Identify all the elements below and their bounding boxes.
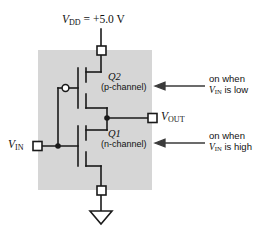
vout-terminal-square[interactable]	[148, 114, 157, 123]
annotation-n-channel: on when VIN is high	[209, 131, 252, 153]
annotation-arrow-top-head	[155, 82, 165, 90]
annotation-arrow-bottom-head	[155, 139, 165, 147]
vout-symbol: V	[161, 110, 168, 122]
q2-designator-label: Q2	[108, 71, 121, 83]
cmos-inverter-schematic	[0, 0, 267, 236]
annotation-p-channel-line2: VIN is low	[209, 85, 248, 96]
q1-type-label: (n-channel)	[101, 139, 147, 149]
annotation-p-channel-condition: is low	[222, 84, 248, 95]
vout-label: VOUT	[161, 110, 185, 124]
q2-type-label: (p-channel)	[101, 82, 147, 92]
vdd-label: VDD = +5.0 V	[62, 13, 125, 27]
annotation-p-channel-line1: on when	[209, 73, 245, 84]
annotation-n-channel-line1: on when	[209, 130, 245, 141]
annotation-p-channel-vin-subscript: IN	[215, 88, 222, 95]
ground-terminal-square[interactable]	[97, 186, 106, 195]
vin-label: VIN	[8, 138, 24, 152]
output-junction-dot	[104, 115, 110, 121]
vin-terminal-square[interactable]	[33, 142, 42, 151]
figure-canvas: VDD = +5.0 V VOUT VIN Q2 (p-channel) Q1 …	[0, 0, 267, 236]
input-junction-dot	[55, 143, 61, 149]
annotation-p-channel: on when VIN is low	[209, 74, 248, 96]
ground-symbol-icon	[90, 211, 112, 224]
substrate-region	[38, 50, 152, 190]
vdd-value: = +5.0 V	[81, 13, 125, 25]
vdd-terminal-square[interactable]	[97, 46, 106, 55]
vin-subscript: IN	[15, 143, 24, 152]
annotation-n-channel-line2: VIN is high	[209, 142, 252, 153]
pmos-gate-bubble-icon	[62, 85, 69, 92]
vdd-subscript: DD	[69, 18, 81, 27]
vin-symbol: V	[8, 138, 15, 150]
vout-subscript: OUT	[168, 115, 185, 124]
annotation-n-channel-condition: is high	[222, 141, 252, 152]
q1-designator-label: Q1	[108, 128, 121, 140]
annotation-n-channel-vin-subscript: IN	[215, 145, 222, 152]
vdd-symbol: V	[62, 13, 69, 25]
